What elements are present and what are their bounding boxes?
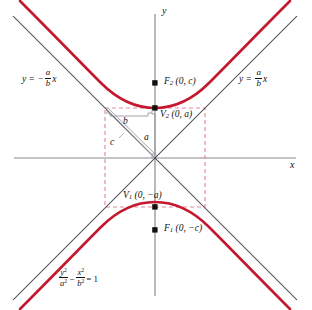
label-segment-a: a [144, 133, 149, 143]
asymptote-left-numerator: a [45, 68, 52, 79]
equation-fraction-y: y2a2 [59, 268, 68, 287]
leader-c [119, 133, 124, 138]
equation-fraction-x: x2b2 [76, 268, 85, 287]
label-conic-equation: y2a2−x2b2= 1 [58, 268, 98, 287]
equation-denominator-a: a2 [59, 278, 68, 287]
asymptote-left-denominator: b [45, 79, 52, 89]
label-segment-c: c [110, 138, 114, 148]
point-focus-lower [152, 227, 157, 232]
brace-b [106, 113, 152, 116]
equation-minus: − [69, 274, 75, 284]
asymptote-left-fraction: ab [45, 68, 52, 88]
focus-upper-subscript: 2 [170, 79, 173, 86]
hyperbola-figure: y x F2 (0, c) V2 (0, a) V1 (0, −a) F1 (0… [0, 0, 312, 310]
label-focus-lower: F1 (0, −c) [164, 224, 202, 234]
asymptote-left-prefix: y = − [22, 74, 44, 84]
vertex-upper-coords: (0, a) [172, 109, 193, 119]
vertex-lower-coords: (0, −a) [135, 190, 162, 200]
label-vertex-lower: V1 (0, −a) [123, 191, 162, 201]
focus-lower-coords: (0, −c) [176, 223, 202, 233]
asymptote-right-suffix: x [263, 74, 267, 84]
asymptote-right-numerator: a [255, 68, 262, 79]
label-asymptote-right: y = abx [239, 68, 267, 88]
equation-equals: = 1 [86, 274, 98, 284]
point-vertex-lower [152, 204, 157, 209]
vertex-lower-subscript: 1 [129, 193, 132, 200]
segment-c-line-offset [108, 108, 157, 156]
measurement-guides [106, 108, 157, 158]
label-segment-b: b [123, 117, 128, 127]
focus-upper-coords: (0, c) [176, 76, 196, 86]
asymptote-right-denominator: b [255, 79, 262, 89]
asymptote-left-suffix: x [52, 74, 56, 84]
label-asymptote-left: y = −abx [22, 68, 57, 88]
label-vertex-upper: V2 (0, a) [160, 110, 192, 120]
equation-numerator-y: y2 [59, 268, 68, 278]
equation-denominator-b: b2 [76, 278, 85, 287]
axes-group [14, 14, 296, 296]
focus-lower-subscript: 1 [170, 226, 173, 233]
vertex-upper-subscript: 2 [166, 112, 169, 119]
asymptote-right-fraction: ab [255, 68, 262, 88]
x-axis-label: x [290, 160, 294, 170]
point-vertex-upper [152, 105, 157, 110]
equation-numerator-x: x2 [76, 268, 85, 278]
label-focus-upper: F2 (0, c) [164, 77, 196, 87]
asymptote-right-prefix: y = [239, 74, 254, 84]
brace-a [152, 110, 155, 158]
point-focus-upper [152, 80, 157, 85]
hyperbola-diagram-svg [0, 0, 312, 310]
y-axis-label: y [162, 6, 166, 16]
